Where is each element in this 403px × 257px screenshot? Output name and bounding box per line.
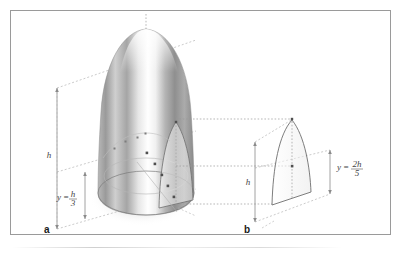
chain-marker xyxy=(173,196,176,199)
paraboloid-apex-highlight xyxy=(120,29,178,72)
interior-marker xyxy=(145,133,147,135)
callout-tick-b xyxy=(262,221,274,228)
partial-label-y-a: y xyxy=(56,192,61,202)
chain-marker xyxy=(167,185,170,188)
apex-marker-b xyxy=(291,118,293,120)
chain-marker xyxy=(154,163,157,166)
chain-marker xyxy=(146,152,149,155)
panel-letter-a: a xyxy=(44,224,50,235)
panel-letter-b: b xyxy=(244,224,250,235)
centroid-marker-b xyxy=(291,165,294,168)
interior-marker xyxy=(137,137,139,139)
partial-label-eq-b: = xyxy=(343,162,349,172)
partial-arrow-bottom-b xyxy=(328,190,332,194)
partial-label-den-a: 3 xyxy=(70,198,76,208)
height-label-a: h xyxy=(47,150,52,160)
partial-arrow-bottom-a xyxy=(83,215,87,219)
interior-marker xyxy=(125,141,127,143)
partial-arrow-top-b xyxy=(328,150,332,154)
height-label-b: h xyxy=(246,177,251,187)
chain-marker-apex xyxy=(175,121,177,123)
height-arrow-top-b xyxy=(253,142,257,146)
height-arrow-top-a xyxy=(55,88,59,92)
partial-label-y-b: y xyxy=(336,162,341,172)
interior-marker xyxy=(114,148,116,150)
cross-section-parabola-b xyxy=(272,120,311,205)
partial-arrow-top-a xyxy=(83,172,87,176)
chain-marker xyxy=(161,174,164,177)
figure-diagram: h y = h 3 a h y = 2h 5 b xyxy=(0,0,403,257)
partial-label-den-b: 5 xyxy=(355,168,360,178)
partial-label-eq-a: = xyxy=(63,192,69,202)
